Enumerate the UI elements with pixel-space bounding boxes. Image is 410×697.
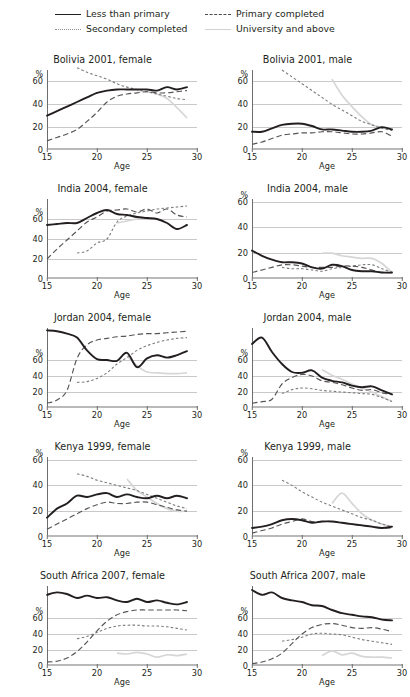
y-axis-ticks: 0204060% <box>205 328 248 408</box>
x-tick-label: 15 <box>247 153 257 162</box>
plot-area: 15202530Age <box>252 70 402 150</box>
legend-item-less-than-primary: Less than primary <box>55 8 205 19</box>
y-tick-label: 40 <box>238 100 248 109</box>
x-tick-label: 25 <box>347 540 357 549</box>
y-axis-ticks: 0204060% <box>0 328 43 408</box>
legend-item-secondary-completed: Secondary completed <box>55 23 205 34</box>
figure-legend: Less than primary Primary completed Seco… <box>0 8 410 34</box>
chart-panel-row: South Africa 2007, female0204060%1520253… <box>0 568 410 697</box>
y-tick-label: 20 <box>238 507 248 516</box>
chart-panel-jordan-2004-female: Jordan 2004, female0204060%15202530Age <box>0 310 205 439</box>
plot-area: 15202530Age <box>252 328 402 408</box>
x-tick-label: 20 <box>297 153 307 162</box>
chart-panel-india-2004-male: India 2004, male0204060%15202530Age <box>205 181 410 310</box>
series-line-primary-completed <box>47 502 187 529</box>
series-line-university-and-above <box>322 651 392 658</box>
y-axis-ticks: 0204060% <box>205 70 248 150</box>
y-axis-ticks: 0204060% <box>205 457 248 537</box>
plot-area: 15202530Age <box>47 70 197 150</box>
series-line-university-and-above <box>332 79 392 129</box>
series-line-less-than-primary <box>47 87 187 116</box>
y-tick-label: 20 <box>33 255 43 264</box>
y-axis-unit-label: % <box>35 607 43 616</box>
x-tick-label: 30 <box>397 282 407 291</box>
series-line-primary-completed <box>47 331 187 403</box>
y-axis-unit-label: % <box>240 449 248 458</box>
y-tick-label: 20 <box>238 388 248 397</box>
legend-item-university-and-above: University and above <box>205 23 355 34</box>
chart-title: Bolivia 2001, female <box>0 54 205 66</box>
plot-area: 15202530Age <box>252 457 402 537</box>
y-axis-ticks: 0204060% <box>0 70 43 150</box>
x-tick-label: 15 <box>42 411 52 420</box>
y-axis-ticks: 0204060% <box>0 199 43 279</box>
y-tick-label: 40 <box>238 630 248 639</box>
chart-title: Bolivia 2001, male <box>205 54 410 66</box>
series-layer <box>47 586 197 666</box>
series-layer <box>252 457 402 537</box>
y-axis-ticks: 0204060% <box>205 586 248 666</box>
series-line-university-and-above <box>322 253 392 273</box>
x-axis-label: Age <box>252 549 402 558</box>
series-line-primary-completed <box>252 132 392 145</box>
series-layer <box>47 457 197 537</box>
chart-title: South Africa 2007, male <box>205 570 410 582</box>
x-tick-label: 30 <box>192 669 202 678</box>
x-axis-label: Age <box>252 678 402 687</box>
y-tick-label: 40 <box>33 481 43 490</box>
y-tick-label: 20 <box>238 646 248 655</box>
figure-root: Less than primary Primary completed Seco… <box>0 0 410 697</box>
series-layer <box>252 586 402 666</box>
y-axis-ticks: 0204060% <box>0 586 43 666</box>
legend-row-1: Less than primary Primary completed <box>55 8 355 19</box>
chart-panel-jordan-2004-male: Jordan 2004, male0204060%15202530Age <box>205 310 410 439</box>
series-layer <box>47 328 197 408</box>
x-axis-label: Age <box>47 549 197 558</box>
y-axis-unit-label: % <box>35 70 43 79</box>
x-tick-label: 25 <box>347 153 357 162</box>
legend-label-university-and-above: University and above <box>236 23 335 34</box>
x-tick-label: 30 <box>192 153 202 162</box>
plot-area: 15202530Age <box>47 199 197 279</box>
y-tick-label: 40 <box>33 235 43 244</box>
x-tick-label: 20 <box>297 540 307 549</box>
x-axis-label: Age <box>47 291 197 300</box>
series-line-university-and-above <box>117 219 147 223</box>
x-axis-label: Age <box>252 291 402 300</box>
x-axis-label: Age <box>252 420 402 429</box>
x-tick-label: 15 <box>42 540 52 549</box>
plot-area: 15202530Age <box>47 457 197 537</box>
legend-swatch-dashed-icon <box>205 9 231 18</box>
legend-label-secondary-completed: Secondary completed <box>86 23 188 34</box>
chart-panel-india-2004-female: India 2004, female0204060%15202530Age <box>0 181 205 310</box>
chart-title: Kenya 1999, female <box>0 441 205 453</box>
x-axis-label: Age <box>252 162 402 171</box>
series-line-university-and-above <box>332 493 392 527</box>
series-layer <box>252 328 402 408</box>
series-line-less-than-primary <box>47 330 187 367</box>
x-tick-label: 25 <box>142 411 152 420</box>
series-line-less-than-primary <box>47 592 187 604</box>
chart-panel-grid: Bolivia 2001, female0204060%15202530AgeB… <box>0 52 410 697</box>
legend-label-primary-completed: Primary completed <box>236 8 324 19</box>
y-axis-ticks: 0204060% <box>0 457 43 537</box>
series-line-university-and-above <box>117 652 187 657</box>
series-layer <box>252 199 402 279</box>
x-tick-label: 25 <box>347 669 357 678</box>
chart-title: Jordan 2004, male <box>205 312 410 324</box>
series-layer <box>47 199 197 279</box>
x-axis-label: Age <box>47 420 197 429</box>
series-line-less-than-primary <box>47 493 187 518</box>
chart-title: India 2004, male <box>205 183 410 195</box>
x-tick-label: 25 <box>142 540 152 549</box>
series-line-less-than-primary <box>47 210 187 229</box>
x-tick-label: 30 <box>397 669 407 678</box>
series-line-primary-completed <box>252 374 392 403</box>
x-tick-label: 25 <box>347 411 357 420</box>
y-axis-unit-label: % <box>35 208 43 217</box>
x-tick-label: 30 <box>192 411 202 420</box>
series-layer <box>47 70 197 150</box>
y-tick-label: 40 <box>238 372 248 381</box>
y-tick-label: 20 <box>238 249 248 258</box>
chart-title: India 2004, female <box>0 183 205 195</box>
